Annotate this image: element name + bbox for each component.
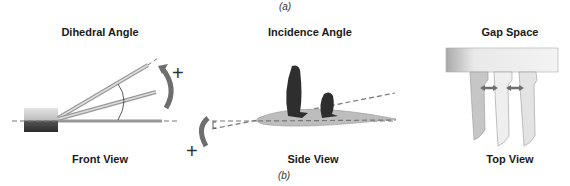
panel-caption-front-view: Front View	[50, 153, 150, 165]
figure-label-b: (b)	[264, 170, 304, 181]
panel-title-incidence: Incidence Angle	[240, 26, 380, 38]
plus-sign-dihedral: +	[172, 62, 184, 84]
plus-sign-incidence: +	[186, 140, 198, 162]
panel-caption-side-view: Side View	[263, 153, 363, 165]
panel-caption-top-view: Top View	[460, 153, 560, 165]
panel-title-gap-space: Gap Space	[460, 26, 560, 38]
